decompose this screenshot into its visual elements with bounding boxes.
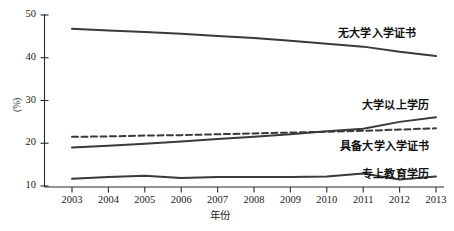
x-axis-title: 年份 bbox=[210, 207, 230, 222]
y-tick-label: 10 bbox=[0, 179, 36, 190]
y-tick-label: 50 bbox=[0, 8, 36, 19]
series-label-0: 无大学入学证书 bbox=[338, 24, 416, 40]
series-line-1 bbox=[72, 128, 436, 137]
series-label-1: 大学以上学历 bbox=[362, 96, 429, 112]
series-label-2: 具备大学入学证书 bbox=[340, 137, 430, 153]
x-axis-ticks bbox=[72, 187, 436, 193]
x-tick-label: 2013 bbox=[412, 194, 454, 205]
y-axis-title: (%) bbox=[12, 98, 22, 112]
series-label-3: 专上教育学历 bbox=[362, 165, 429, 181]
y-tick-label: 20 bbox=[0, 136, 36, 147]
line-chart: 1020304050 20032004200520062007200820092… bbox=[0, 0, 454, 231]
y-tick-label: 40 bbox=[0, 51, 36, 62]
